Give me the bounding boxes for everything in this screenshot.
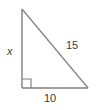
right-triangle-figure: x 15 10 bbox=[0, 0, 97, 110]
vertical-leg-label: x bbox=[7, 46, 13, 57]
horizontal-leg-label: 10 bbox=[44, 93, 56, 104]
hypotenuse-label: 15 bbox=[66, 40, 78, 51]
right-angle-icon bbox=[22, 79, 31, 88]
